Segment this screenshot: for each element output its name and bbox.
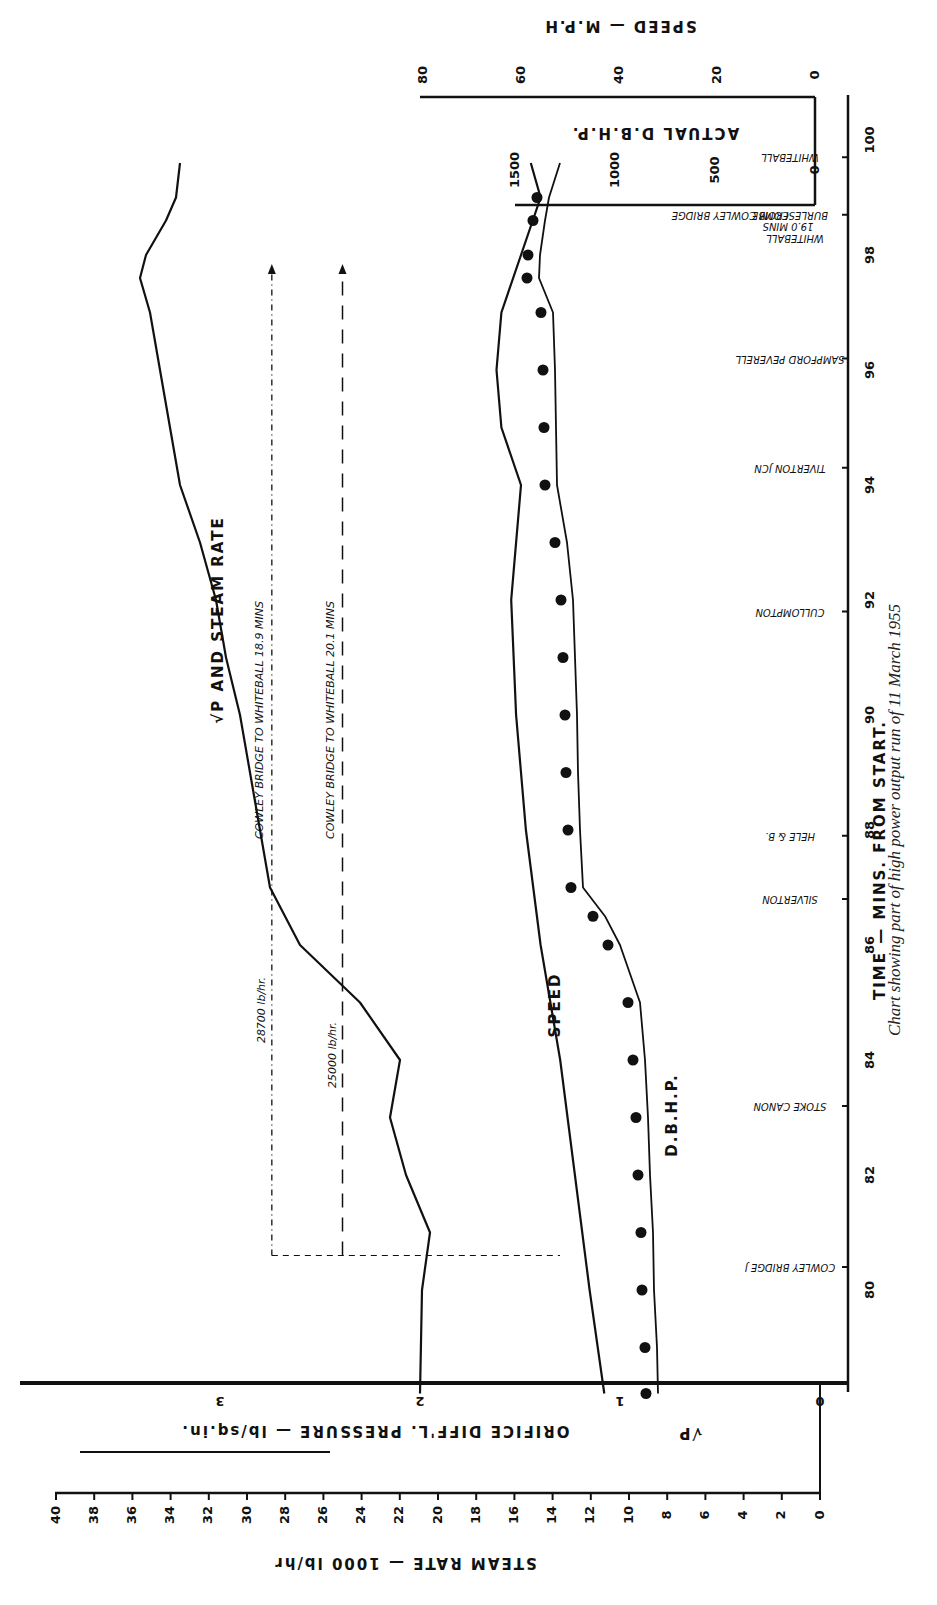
time-tick-label: 96 — [862, 361, 877, 379]
time-tick-label: 84 — [862, 1051, 877, 1069]
station-label: COWLEY BRIDGE J — [745, 1262, 836, 1273]
steam-rate-tick-label: 28 — [277, 1506, 292, 1524]
steam-rate-tick-label: 40 — [48, 1506, 63, 1524]
sqrtp-tick-label: 1 — [615, 1394, 624, 1409]
dbhp-data-point — [532, 192, 543, 203]
dbhp-data-point — [539, 422, 550, 433]
dbhp-data-point — [566, 882, 577, 893]
arrowhead-icon — [268, 264, 276, 274]
dbhp-data-point — [623, 997, 634, 1008]
station-label: CULLOMPTON — [755, 607, 825, 618]
dbhp-data-point — [637, 1285, 648, 1296]
steam-rate-tick-label: 22 — [391, 1506, 406, 1524]
whiteball-note: WHITEBALL — [766, 233, 824, 244]
station-label: HELE & B. — [765, 831, 815, 842]
dbhp-curve-label: D.B.H.P. — [663, 1073, 681, 1156]
annotation-28700: 28700 lb/hr. — [255, 977, 268, 1043]
steam-rate-tick-label: 38 — [86, 1506, 101, 1524]
dbhp-data-point — [540, 480, 551, 491]
steam-rate-tick-label: 26 — [315, 1506, 330, 1524]
dbhp-axis-title: ACTUAL D.B.H.P. — [571, 124, 739, 142]
dbhp-data-point — [588, 911, 599, 922]
chart-canvas: 80828486889092949698100TIME — MINS. FROM… — [0, 0, 937, 1605]
steam-rate-tick-label: 2 — [773, 1510, 788, 1519]
steam-rate-tick-label: 20 — [430, 1506, 445, 1524]
dbhp-data-point — [641, 1388, 652, 1399]
sqrtp-symbol: √P — [678, 1424, 703, 1442]
station-label: TIVERTON JCN — [754, 463, 826, 474]
dbhp-data-point — [556, 595, 567, 606]
time-tick-label: 80 — [862, 1281, 877, 1299]
sqrtp-axis-title: ORIFICE DIFF'L. PRESSURE — lb/sq.in. — [180, 1422, 569, 1440]
time-tick-label: 94 — [862, 476, 877, 494]
steam-rate-tick-label: 32 — [200, 1506, 215, 1524]
steam-rate-axis-title: STEAM RATE — 1000 lb/hr — [273, 1554, 536, 1572]
station-label: BURLESCOMBE — [751, 210, 828, 221]
labels-group: 80828486889092949698100TIME — MINS. FROM… — [48, 17, 889, 1572]
time-tick-label: 98 — [862, 246, 877, 264]
sqrtp-tick-label: 2 — [415, 1394, 424, 1409]
dbhp-data-point — [628, 1055, 639, 1066]
arrowhead-icon — [339, 264, 347, 274]
steam-rate-tick-label: 4 — [735, 1510, 750, 1519]
speed-tick-label: 60 — [513, 66, 528, 84]
speed-curve-label: SPEED — [546, 973, 564, 1038]
steam-rate-tick-label: 16 — [506, 1506, 521, 1524]
dbhp-data-point — [563, 825, 574, 836]
steam-rate-tick-label: 10 — [621, 1506, 636, 1524]
dbhp-data-point — [550, 537, 561, 548]
steam-rate-tick-label: 36 — [124, 1506, 139, 1524]
dbhp-data-point — [538, 365, 549, 376]
dbhp-data-point — [558, 652, 569, 663]
speed-tick-label: 40 — [611, 66, 626, 84]
steam-rate-tick-label: 14 — [544, 1506, 559, 1524]
dbhp-data-point — [560, 710, 571, 721]
axes-group — [20, 95, 848, 1500]
station-label: SAMPFORD PEVERELL — [735, 354, 844, 365]
speed-tick-label: 0 — [807, 70, 822, 79]
dbhp-tick-label: 500 — [707, 156, 722, 183]
time-tick-label: 92 — [862, 591, 877, 609]
dbhp-data-point — [631, 1112, 642, 1123]
dbhp-data-point — [523, 250, 534, 261]
dbhp-curve — [539, 163, 658, 1394]
annotation-run-20-1: COWLEY BRIDGE TO WHITEBALL 20.1 MINS — [324, 601, 337, 839]
steam-rate-tick-label: 6 — [697, 1510, 712, 1519]
time-tick-label: 100 — [862, 126, 877, 153]
dbhp-data-point — [633, 1170, 644, 1181]
steam-rate-tick-label: 0 — [812, 1510, 827, 1519]
steam-rate-tick-label: 18 — [468, 1506, 483, 1524]
dbhp-data-point — [561, 767, 572, 778]
steam-rate-tick-label: 8 — [659, 1510, 674, 1519]
sqrtp-tick-label: 0 — [815, 1394, 824, 1409]
steam-rate-tick-label: 34 — [162, 1506, 177, 1524]
sqrtp-steam-label: √P AND STEAM RATE — [209, 516, 227, 724]
dbhp-data-point — [636, 1227, 647, 1238]
dbhp-data-point — [536, 307, 547, 318]
annotation-run-18-9: COWLEY BRIDGE TO WHITEBALL 18.9 MINS — [253, 601, 266, 839]
steam-rate-tick-label: 12 — [582, 1506, 597, 1524]
dbhp-data-point — [640, 1342, 651, 1353]
dbhp-data-point — [522, 273, 533, 284]
sqrtp-steam-rate-curve — [140, 163, 430, 1394]
steam-rate-tick-label: 30 — [239, 1506, 254, 1524]
sqrtp-tick-label: 3 — [215, 1394, 224, 1409]
speed-curve — [497, 163, 605, 1394]
speed-tick-label: 20 — [709, 66, 724, 84]
whiteball-note: 19.0 MINS — [762, 221, 814, 232]
dbhp-data-point — [528, 215, 539, 226]
time-tick-label: 82 — [862, 1166, 877, 1184]
chart-figure: 80828486889092949698100TIME — MINS. FROM… — [0, 0, 937, 1605]
station-label: SILVERTON — [762, 894, 818, 905]
steam-rate-tick-label: 24 — [353, 1506, 368, 1524]
speed-tick-label: 80 — [415, 66, 430, 84]
speed-axis-title: SPEED — M.P.H — [543, 17, 696, 35]
dbhp-tick-label: 1000 — [607, 152, 622, 188]
station-label: WHITEBALL — [761, 152, 819, 163]
curves-group — [140, 163, 658, 1399]
annotation-25000: 25000 lb/hr. — [326, 1022, 339, 1088]
dbhp-data-point — [603, 940, 614, 951]
dbhp-tick-label: 1500 — [507, 152, 522, 188]
station-label: STOKE CANON — [753, 1101, 827, 1112]
dbhp-tick-label: 0 — [807, 165, 822, 174]
